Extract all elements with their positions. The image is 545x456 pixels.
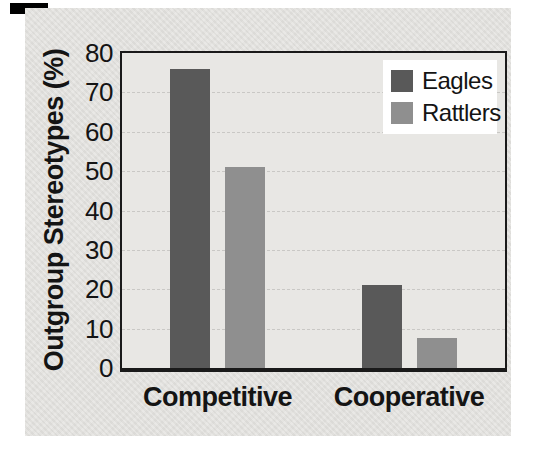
bar-rattlers-cooperative [417,338,457,368]
legend-item-rattlers: Rattlers [391,101,497,125]
bar-rattlers-competitive [225,167,265,368]
legend-swatch-eagles [391,70,413,92]
legend-item-eagles: Eagles [391,69,497,93]
y-tick-label: 40 [65,196,113,226]
bar-eagles-cooperative [362,285,402,368]
y-tick-label: 60 [65,117,113,147]
legend: EaglesRattlers [383,60,497,134]
y-tick-label: 30 [65,235,113,265]
y-tick-label: 10 [65,314,113,344]
figure-panel: Outgroup Stereotypes (%) 807060504030201… [25,8,511,436]
x-category-label-cooperative: Cooperative [334,382,485,413]
legend-label: Eagles [422,69,492,93]
y-tick-label: 0 [65,353,113,383]
plot-area: EaglesRattlers [120,51,507,372]
y-tick-label: 80 [65,38,113,68]
x-category-label-competitive: Competitive [143,382,292,413]
legend-swatch-rattlers [391,102,413,124]
legend-label: Rattlers [422,101,501,125]
bar-eagles-competitive [170,69,210,368]
y-tick-label: 50 [65,156,113,186]
y-tick-label: 20 [65,274,113,304]
y-tick-label: 70 [65,77,113,107]
figure-page: Outgroup Stereotypes (%) 807060504030201… [0,0,545,456]
